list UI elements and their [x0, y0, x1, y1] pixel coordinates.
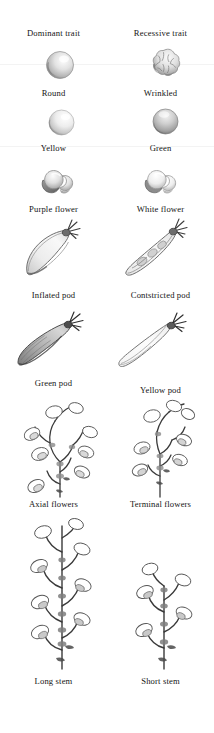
green-pea-pod-icon [12, 310, 98, 376]
axial-flower-stem-icon [14, 398, 106, 498]
trait-label-white-flower: White flower [107, 204, 214, 214]
wrinkled-pea-seed-icon [149, 46, 185, 82]
trait-label-terminal-flowers: Terminal flowers [107, 499, 214, 509]
long-pea-stem-icon [16, 518, 104, 670]
inflated-pea-pod-icon [18, 216, 98, 286]
white-pea-flower-icon [138, 163, 190, 203]
trait-label-purple-flower: Purple flower [0, 204, 107, 214]
yellow-pea-pod-icon [112, 312, 202, 378]
trait-label-inflated-pod: Inflated pod [0, 290, 107, 300]
trait-label-yellow-pod: Yellow pod [107, 385, 214, 395]
trait-label-yellow: Yellow [0, 143, 107, 153]
constricted-pea-pod-icon [118, 216, 202, 286]
terminal-flower-stem-icon [122, 398, 204, 498]
short-pea-stem-icon [126, 560, 202, 670]
round-pea-seed-icon [44, 48, 78, 82]
trait-label-axial-flowers: Axial flowers [0, 499, 107, 509]
trait-label-green: Green [107, 143, 214, 153]
trait-label-round: Round [0, 88, 107, 98]
trait-label-green-pod: Green pod [0, 378, 107, 388]
column-header-dominant: Dominant trait [0, 28, 107, 38]
trait-label-wrinkled: Wrinkled [107, 88, 214, 98]
column-header-recessive: Recessive trait [107, 28, 214, 38]
green-pea-seed-icon [150, 106, 182, 138]
mendel-trait-chart: Dominant trait Recessive trait [0, 0, 214, 733]
yellow-pea-seed-icon [46, 107, 78, 139]
trait-label-constricted-pod: Contstricted pod [107, 290, 214, 300]
purple-pea-flower-icon [35, 163, 87, 203]
trait-label-long-stem: Long stem [0, 676, 107, 686]
trait-label-short-stem: Short stem [107, 676, 214, 686]
